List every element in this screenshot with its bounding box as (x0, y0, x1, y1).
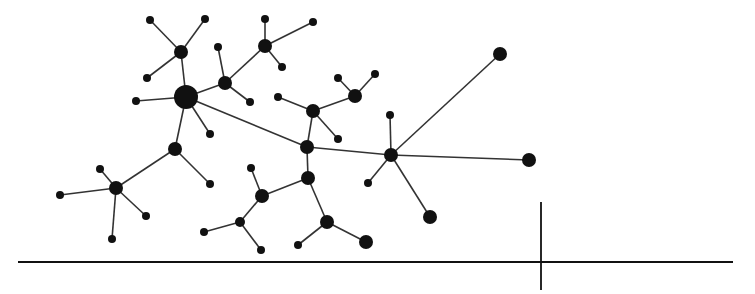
node (255, 189, 269, 203)
node (174, 45, 188, 59)
node (359, 235, 373, 249)
node (218, 76, 232, 90)
leaf-node (56, 191, 64, 199)
edge (112, 188, 116, 239)
leaf-node (235, 217, 245, 227)
node (306, 104, 320, 118)
node (258, 39, 272, 53)
edge (204, 222, 240, 232)
leaf-node (364, 179, 372, 187)
leaf-node (274, 93, 282, 101)
leaf-node (309, 18, 317, 26)
leaf-node (371, 70, 379, 78)
leaf-node (146, 16, 154, 24)
edge (175, 149, 210, 184)
leaf-node (257, 246, 265, 254)
leaf-node (206, 130, 214, 138)
leaf-node (278, 63, 286, 71)
leaf-node (201, 15, 209, 23)
leaf-node (261, 15, 269, 23)
edge (240, 222, 261, 250)
edge-layer (60, 19, 529, 250)
leaf-node (294, 241, 302, 249)
network-diagram (0, 0, 755, 294)
network-graph-svg (0, 0, 755, 294)
hub-node (174, 85, 198, 109)
leaf-node (386, 111, 394, 119)
edge (116, 149, 175, 188)
node (522, 153, 536, 167)
leaf-node (246, 98, 254, 106)
node (423, 210, 437, 224)
leaf-node (142, 212, 150, 220)
edge (391, 155, 529, 160)
node (168, 142, 182, 156)
edge (265, 22, 313, 46)
node (384, 148, 398, 162)
edge (391, 54, 500, 155)
node-layer (56, 15, 536, 254)
leaf-node (108, 235, 116, 243)
edge (307, 147, 391, 155)
edge (225, 46, 265, 83)
edge (262, 178, 308, 196)
edge (391, 155, 430, 217)
node (301, 171, 315, 185)
node (300, 140, 314, 154)
edge (60, 188, 116, 195)
leaf-node (334, 135, 342, 143)
node (320, 215, 334, 229)
leaf-node (247, 164, 255, 172)
leaf-node (96, 165, 104, 173)
edge (186, 97, 307, 147)
node (109, 181, 123, 195)
leaf-node (200, 228, 208, 236)
leaf-node (214, 43, 222, 51)
leaf-node (206, 180, 214, 188)
node (493, 47, 507, 61)
node (348, 89, 362, 103)
leaf-node (334, 74, 342, 82)
leaf-node (143, 74, 151, 82)
leaf-node (132, 97, 140, 105)
edge (308, 178, 327, 222)
